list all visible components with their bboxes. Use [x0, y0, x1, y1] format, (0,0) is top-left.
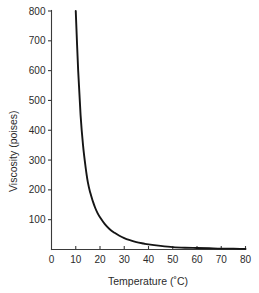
y-tick-label: 600	[29, 65, 46, 76]
y-axis-title: Viscosity (poises)	[7, 111, 19, 193]
y-tick-label: 300	[29, 155, 46, 166]
viscosity-temperature-chart: Viscosity (poises) Temperature (˚C) 1002…	[0, 0, 259, 293]
x-tick-label: 70	[216, 254, 228, 265]
x-tick-label: 80	[240, 254, 252, 265]
chart-svg: Viscosity (poises) Temperature (˚C) 1002…	[0, 0, 259, 293]
x-tick-label: 0	[49, 254, 55, 265]
y-tick-label: 800	[29, 6, 46, 17]
x-tick-label: 40	[143, 254, 155, 265]
x-tick-label: 10	[70, 254, 82, 265]
y-tick-group: 100200300400500600700800	[29, 6, 52, 226]
y-tick-label: 400	[29, 125, 46, 136]
viscosity-curve	[76, 11, 246, 249]
x-tick-label: 50	[167, 254, 179, 265]
x-tick-label: 60	[191, 254, 203, 265]
y-tick-label: 200	[29, 184, 46, 195]
x-tick-label: 20	[94, 254, 106, 265]
x-tick-label: 30	[119, 254, 131, 265]
y-tick-label: 700	[29, 35, 46, 46]
x-axis-title: Temperature (˚C)	[108, 275, 188, 287]
y-tick-label: 100	[29, 214, 46, 225]
y-tick-label: 500	[29, 95, 46, 106]
